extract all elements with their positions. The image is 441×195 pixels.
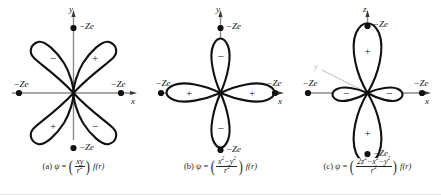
caption-paren-close-a: ): [86, 161, 90, 173]
caption-equals-b: =: [203, 161, 208, 171]
x-axis-arrow-a: [130, 91, 137, 95]
lobe-left-small-c: [333, 88, 368, 101]
charge-dot-bottom-a: [70, 145, 76, 151]
lobe-sign-right-b: +: [249, 87, 255, 99]
charge-label-right-b: −Ze: [266, 78, 281, 88]
caption-fraction-b: x2−y2r2: [216, 158, 237, 176]
axis-lines-a: [12, 14, 133, 140]
x-axis-label-a: x: [130, 96, 135, 106]
lobe-sign-up-b: −: [217, 50, 223, 62]
lobe-lower-right-a: [74, 93, 117, 144]
caption-psi-a: ψ: [54, 161, 59, 171]
orbital-figure: − + + − −Ze −Ze −Ze −Ze y x (a) ψ = (xyr…: [0, 0, 441, 195]
caption-denominator-c: r2: [356, 167, 392, 175]
charge-label-left-a: −Ze: [13, 79, 28, 89]
caption-paren-close-c: ): [393, 161, 397, 173]
charge-dot-top-b: [217, 25, 223, 31]
lobe-sign-lower-left-a: +: [50, 120, 56, 132]
x-axis-label-c: x: [424, 96, 429, 106]
panel-a-drawing: − + + − −Ze −Ze −Ze −Ze y x: [0, 0, 147, 158]
lobe-sign-down-b: −: [217, 122, 223, 134]
y-axis-label-b: y: [215, 4, 220, 14]
lobe-upper-left-a: [31, 42, 74, 93]
charge-dot-bottom-b: [217, 147, 223, 153]
charge-label-left-b: −Ze: [155, 78, 170, 88]
caption-fraction-a: xyr2: [75, 158, 85, 176]
caption-paren-open-c: (: [350, 161, 354, 173]
caption-fraction-c: 2z2−x2−y2r2: [356, 158, 392, 176]
caption-a: (a) ψ = (xyr2) f(r): [0, 158, 147, 176]
lobe-sign-lower-right-a: −: [92, 120, 98, 132]
caption-paren-open-b: (: [211, 161, 215, 173]
lobe-sign-up-c: +: [364, 45, 370, 57]
charge-label-right-a: −Ze: [110, 79, 125, 89]
lobe-sign-upper-left-a: −: [50, 52, 56, 64]
caption-radial-a: f(r): [93, 161, 104, 171]
caption-denominator-b: r2: [216, 167, 237, 175]
lobe-up-c: [354, 23, 382, 93]
caption-label-c: (c): [324, 161, 333, 171]
caption-denominator-a: r2: [75, 167, 85, 175]
lobe-sign-down-c: +: [364, 127, 370, 139]
caption-radial-c: f(r): [400, 161, 411, 171]
lobe-left-b: [167, 83, 221, 101]
lobe-lower-left-a: [31, 93, 74, 144]
panel-b-drawing: − + − + −Ze −Ze −Ze −Ze y x: [147, 0, 294, 158]
caption-b: (b) ψ = (x2−y2r2) f(r): [147, 158, 294, 176]
caption-psi-c: ψ: [335, 161, 340, 171]
x-axis-label-b: x: [277, 96, 282, 106]
charge-label-bottom-a: −Ze: [79, 142, 94, 152]
caption-psi-b: ψ: [196, 161, 201, 171]
panel-c: + + − − −Ze −Ze −Ze −Ze z x y (c) ψ = (2…: [294, 0, 441, 195]
charge-dot-top-a: [70, 25, 76, 31]
lobe-sign-upper-right-a: +: [92, 52, 98, 64]
panel-a: − + + − −Ze −Ze −Ze −Ze y x (a) ψ = (xyr…: [0, 0, 147, 195]
charge-dot-left-b: [158, 90, 164, 96]
charge-label-top-c: −Ze: [373, 19, 388, 29]
charge-label-left-c: −Ze: [302, 78, 317, 88]
charge-label-top-a: −Ze: [79, 21, 94, 31]
y-axis-label-a: y: [68, 4, 73, 14]
charge-dot-left-a: [16, 90, 22, 96]
panel-b: − + − + −Ze −Ze −Ze −Ze y x (b) ψ = (x2−…: [147, 0, 294, 195]
lobe-up-b: [211, 39, 229, 94]
caption-radial-b: f(r): [246, 161, 257, 171]
panel-c-drawing: + + − − −Ze −Ze −Ze −Ze z x y: [294, 0, 441, 158]
lobe-sign-right-c: −: [386, 87, 392, 99]
lobe-sign-left-b: +: [186, 87, 192, 99]
lobe-down-b: [211, 93, 229, 148]
z-axis-label-c: z: [362, 4, 367, 14]
charge-label-top-b: −Ze: [226, 21, 241, 31]
charge-label-right-c: −Ze: [413, 78, 428, 88]
charge-dot-right-a: [118, 90, 124, 96]
y-axis-label-c: y: [313, 62, 318, 71]
caption-equals-a: =: [62, 161, 67, 171]
caption-paren-open-a: (: [69, 161, 73, 173]
caption-paren-close-b: ): [239, 161, 243, 173]
charge-dot-top-c: [364, 23, 370, 29]
caption-equals-c: =: [343, 161, 348, 171]
charge-label-bottom-b: −Ze: [226, 144, 241, 154]
lobe-sign-left-c: −: [343, 87, 349, 99]
caption-label-b: (b): [184, 161, 194, 171]
caption-label-a: (a): [43, 161, 52, 171]
caption-c: (c) ψ = (2z2−x2−y2r2) f(r): [294, 158, 441, 176]
charge-dot-left-c: [305, 90, 311, 96]
